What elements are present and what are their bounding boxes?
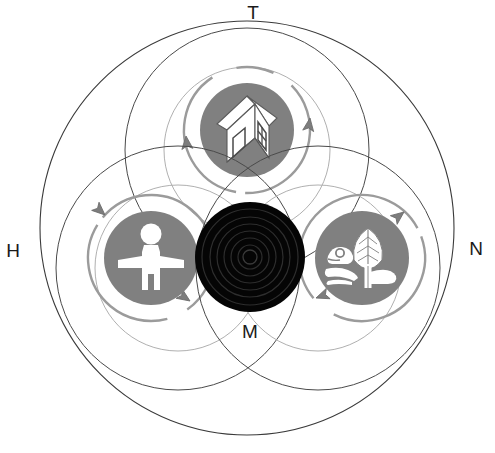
- sustainability-model-diagram: T H N M: [0, 0, 495, 453]
- diagram-canvas: T H N M: [0, 0, 495, 453]
- center-disc-fill: [195, 202, 305, 312]
- label-right-n: N: [469, 238, 483, 259]
- label-left-h: H: [6, 240, 20, 261]
- center-black-disc[interactable]: [195, 202, 305, 312]
- label-top-t: T: [247, 2, 259, 23]
- label-center-m: M: [242, 321, 258, 342]
